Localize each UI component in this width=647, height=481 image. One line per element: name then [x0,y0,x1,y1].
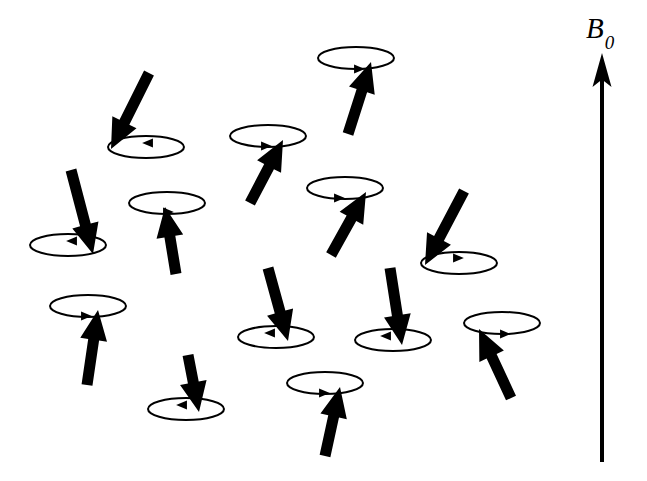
b0-label-symbol: B [586,12,604,44]
diagram-background [0,0,647,481]
precession-diagram: B0 [0,0,647,481]
diagram-canvas [0,0,647,481]
b0-field-label: B0 [586,14,613,48]
b0-label-subscript: 0 [605,32,615,53]
